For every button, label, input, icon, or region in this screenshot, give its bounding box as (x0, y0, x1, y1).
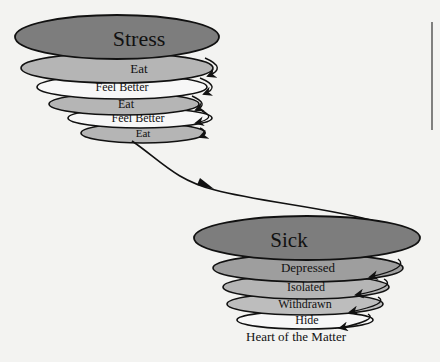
diagram-caption: Heart of the Matter (246, 329, 347, 344)
bottom-spiral: Hide Withdrawn Isolated Depressed Sick (194, 216, 420, 329)
bottom-layer-1: Sick (194, 216, 420, 260)
top-layer-label: Eat (130, 61, 148, 76)
diagram-page: Eat Feel Better Eat Feel Better Eat (0, 0, 440, 362)
bottom-layer-title: Sick (270, 228, 308, 252)
top-layer-1: Stress (15, 15, 219, 59)
top-layer-title: Stress (113, 26, 166, 51)
top-layer-label: Eat (136, 127, 151, 139)
top-spiral: Eat Feel Better Eat Feel Better Eat (15, 15, 219, 143)
bottom-layer-label: Depressed (281, 260, 336, 275)
connector-curve (132, 141, 378, 222)
spiral-diagram: Eat Feel Better Eat Feel Better Eat (0, 0, 440, 362)
